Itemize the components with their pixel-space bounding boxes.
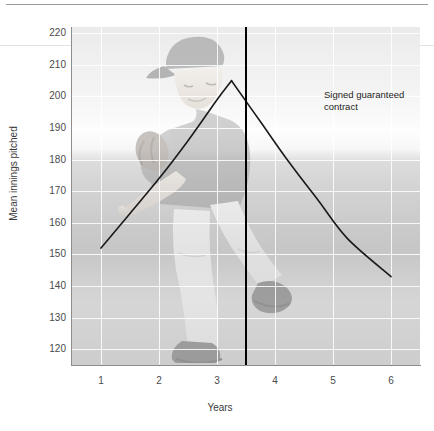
x-tick-label: 4	[265, 376, 285, 386]
y-tick-label: 120	[4, 344, 66, 354]
chart-figure: 220210200190180170160150140130120 123456…	[0, 0, 434, 431]
y-tick-label: 140	[4, 281, 66, 291]
y-tick-label: 220	[4, 28, 66, 38]
y-tick-label: 150	[4, 249, 66, 259]
annotation-line-1: Signed guaranteed	[324, 89, 404, 101]
y-tick-label: 130	[4, 313, 66, 323]
annotation-line-2: contract	[324, 101, 404, 113]
event-marker-group	[72, 27, 420, 365]
x-tick-label: 6	[381, 376, 401, 386]
y-tick-label: 210	[4, 60, 66, 70]
x-tick-label: 2	[149, 376, 169, 386]
x-axis-line	[71, 365, 421, 366]
x-tick-label: 3	[207, 376, 227, 386]
y-axis-title: Mean innings pitched	[8, 99, 19, 249]
x-axis-title: Years	[170, 402, 270, 413]
plot-area: Signed guaranteed contract	[72, 27, 420, 365]
x-tick-label: 5	[323, 376, 343, 386]
top-horizontal-rule	[6, 4, 428, 5]
signed-contract-annotation: Signed guaranteed contract	[324, 89, 404, 112]
x-tick-label: 1	[91, 376, 111, 386]
